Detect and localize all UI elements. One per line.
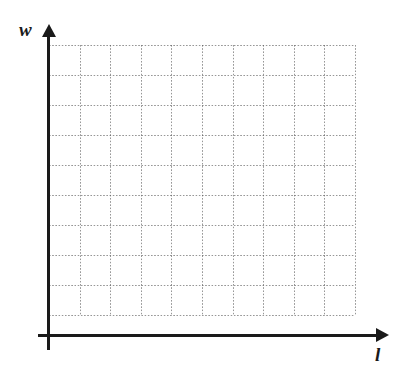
grid-area bbox=[49, 45, 355, 315]
gridline-vertical bbox=[324, 45, 325, 315]
gridline-vertical bbox=[202, 45, 203, 315]
gridline-vertical bbox=[294, 45, 295, 315]
gridline-vertical bbox=[171, 45, 172, 315]
gridline-horizontal bbox=[49, 315, 355, 316]
x-axis-arrow-icon bbox=[376, 328, 389, 342]
x-axis-label: l bbox=[375, 345, 380, 364]
y-axis-label: w bbox=[19, 20, 32, 39]
gridline-vertical bbox=[141, 45, 142, 315]
y-axis-line bbox=[47, 33, 50, 350]
gridline-vertical bbox=[263, 45, 264, 315]
gridline-vertical bbox=[110, 45, 111, 315]
coordinate-grid-figure: w l bbox=[0, 0, 399, 384]
gridline-vertical bbox=[80, 45, 81, 315]
gridline-vertical bbox=[233, 45, 234, 315]
y-axis-arrow-icon bbox=[42, 24, 56, 37]
gridline-vertical bbox=[355, 45, 356, 315]
x-axis-line bbox=[38, 334, 382, 337]
